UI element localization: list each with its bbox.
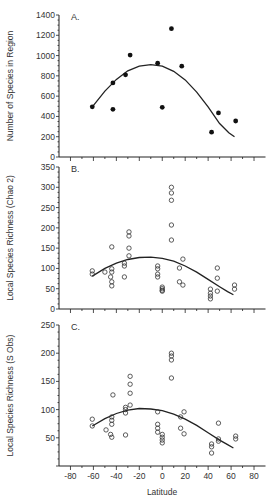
data-point <box>160 441 164 445</box>
panel-a: 0200400600800100012001400Number of Speci… <box>5 10 266 162</box>
panel-label: B. <box>71 164 80 174</box>
y-tick-label: 200 <box>41 223 55 233</box>
x-axis-title: Latitude <box>147 487 178 497</box>
data-point <box>90 417 94 421</box>
data-point <box>103 270 107 274</box>
data-point <box>169 376 173 380</box>
data-point <box>209 445 213 449</box>
y-tick-label: 200 <box>41 132 55 142</box>
y-tick-label: 200 <box>41 348 55 358</box>
data-point <box>108 275 112 279</box>
x-tick-label: 40 <box>203 471 213 481</box>
data-point <box>179 64 184 69</box>
y-tick-label: 0 <box>50 304 55 314</box>
y-axis-title: Local Species Richness (Chao 2) <box>5 175 15 301</box>
x-tick-label: -20 <box>133 471 146 481</box>
data-point <box>169 191 173 195</box>
data-point <box>111 81 116 86</box>
y-tick-label: 600 <box>41 91 55 101</box>
x-tick-label: 60 <box>226 471 236 481</box>
data-point <box>111 393 115 397</box>
data-point <box>123 433 127 437</box>
x-tick-label: -60 <box>87 471 100 481</box>
figure: 0200400600800100012001400Number of Speci… <box>0 0 279 501</box>
data-point <box>104 428 108 432</box>
data-point <box>215 289 219 293</box>
data-point <box>169 185 173 189</box>
data-point <box>111 107 116 112</box>
x-tick-label: -80 <box>64 471 77 481</box>
data-point <box>209 130 214 135</box>
data-point <box>182 410 186 414</box>
data-point <box>155 267 159 271</box>
data-point <box>233 119 238 124</box>
y-axis-title: Number of Species in Region <box>5 30 15 141</box>
data-point <box>181 257 185 261</box>
data-point <box>216 110 221 115</box>
data-point <box>155 61 160 66</box>
y-tick-label: 300 <box>41 182 55 192</box>
data-point <box>169 223 173 227</box>
data-point <box>209 451 213 455</box>
x-tick-label: 80 <box>249 471 259 481</box>
data-point <box>122 275 126 279</box>
data-point <box>169 238 173 242</box>
data-point <box>123 72 128 77</box>
panel-b: 050100150200250300350Local Species Richn… <box>5 162 266 314</box>
y-tick-label: 150 <box>41 376 55 386</box>
fit-curve <box>92 65 234 137</box>
panel-label: C. <box>71 322 80 332</box>
data-point <box>110 245 114 249</box>
data-point <box>127 246 131 250</box>
y-tick-label: 250 <box>41 320 55 330</box>
data-point <box>178 426 182 430</box>
data-point <box>160 105 165 110</box>
data-point <box>181 283 185 287</box>
data-point <box>128 382 132 386</box>
data-point <box>215 276 219 280</box>
data-point <box>177 266 181 270</box>
y-tick-label: 100 <box>41 263 55 273</box>
y-tick-label: 50 <box>46 433 56 443</box>
data-point <box>128 53 133 58</box>
data-point <box>182 432 186 436</box>
panel-c: 50100150200250-80-60-40-20020406080Local… <box>5 320 266 481</box>
chart-svg: 0200400600800100012001400Number of Speci… <box>0 0 279 501</box>
data-point <box>155 275 159 279</box>
data-point <box>208 297 212 301</box>
x-tick-label: 0 <box>160 471 165 481</box>
x-tick-label: 20 <box>180 471 190 481</box>
data-point <box>90 424 94 428</box>
data-point <box>128 374 132 378</box>
y-tick-label: 1200 <box>36 30 55 40</box>
data-point <box>233 437 237 441</box>
y-tick-label: 100 <box>41 405 55 415</box>
data-point <box>169 26 174 31</box>
y-axis-title: Local Species Richness (S Obs) <box>5 334 15 456</box>
data-point <box>215 266 219 270</box>
data-point <box>122 264 126 268</box>
y-tick-label: 1400 <box>36 10 55 20</box>
data-point <box>110 435 114 439</box>
data-point <box>216 421 220 425</box>
data-point <box>169 198 173 202</box>
x-tick-label: -40 <box>110 471 123 481</box>
y-tick-label: 250 <box>41 203 55 213</box>
data-point <box>128 403 132 407</box>
y-tick-label: 800 <box>41 71 55 81</box>
data-point <box>90 104 95 109</box>
y-tick-label: 1000 <box>36 51 55 61</box>
data-point <box>108 432 112 436</box>
data-point <box>127 254 131 258</box>
y-tick-label: 0 <box>50 152 55 162</box>
data-point <box>110 270 114 274</box>
y-tick-label: 150 <box>41 243 55 253</box>
data-point <box>128 391 132 395</box>
y-tick-label: 350 <box>41 162 55 172</box>
y-tick-label: 50 <box>46 284 56 294</box>
y-tick-label: 400 <box>41 111 55 121</box>
panel-label: A. <box>71 12 80 22</box>
